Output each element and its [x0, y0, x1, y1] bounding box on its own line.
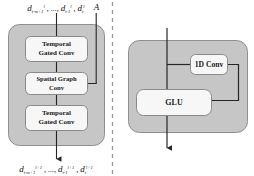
- left-panel-group: Temporal Gated Conv Spatial Graph Conv T…: [9, 2, 105, 175]
- glu-block[interactable]: GLU: [137, 90, 212, 116]
- temporal-gated-conv-top-line1: Temporal: [42, 40, 71, 48]
- left-output-label: dt-m+1l+1 , ..., dt-1l+1 , dtl+1: [19, 164, 92, 175]
- spatial-graph-conv-line1: Spatial Graph: [36, 75, 76, 82]
- block-diagram: Temporal Gated Conv Spatial Graph Conv T…: [0, 0, 254, 176]
- figure-canvas: Temporal Gated Conv Spatial Graph Conv T…: [0, 0, 254, 176]
- svg-text:dt-m+1l+1 , ..., dt-1l+1 , dtl: dt-m+1l+1 , ..., dt-1l+1 , dtl+1: [19, 164, 92, 175]
- temporal-gated-conv-bottom-line2: Gated Conv: [39, 118, 75, 126]
- spatial-graph-conv-block[interactable]: Spatial Graph Conv: [26, 73, 88, 95]
- svg-text:dt-m+1l , ..., dt-1l , dtl: dt-m+1l , ..., dt-1l , dtl: [27, 3, 85, 14]
- glu-label: GLU: [165, 98, 183, 107]
- spatial-graph-conv-line2: Conv: [49, 84, 65, 91]
- right-panel-container: [129, 41, 248, 133]
- right-panel-group: 1D Conv GLU: [129, 28, 248, 148]
- adjacency-matrix-label: A: [93, 2, 100, 12]
- temporal-gated-conv-top-block[interactable]: Temporal Gated Conv: [26, 37, 88, 62]
- one-d-conv-label: 1D Conv: [195, 60, 224, 69]
- temporal-gated-conv-bottom-block[interactable]: Temporal Gated Conv: [26, 106, 88, 131]
- temporal-gated-conv-top-line2: Gated Conv: [39, 49, 75, 57]
- temporal-gated-conv-bottom-line1: Temporal: [42, 109, 71, 117]
- left-input-label: dt-m+1l , ..., dt-1l , dtl: [27, 3, 85, 14]
- one-d-conv-block[interactable]: 1D Conv: [191, 55, 228, 75]
